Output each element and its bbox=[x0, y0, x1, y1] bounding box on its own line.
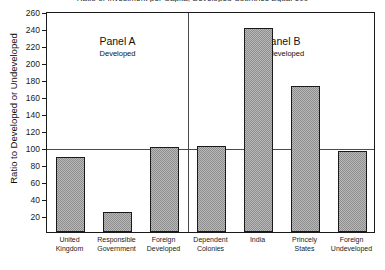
x-axis-label-line: Foreign bbox=[140, 236, 187, 245]
y-axis-tick-label: 200 bbox=[26, 59, 40, 69]
y-axis-tick bbox=[42, 64, 47, 65]
panel-b-annotation: Panel B Undeveloped bbox=[188, 35, 376, 58]
bar bbox=[150, 147, 179, 232]
bar bbox=[338, 151, 367, 232]
x-axis-label-line: India bbox=[234, 236, 281, 245]
y-axis-tick-label: 80 bbox=[31, 161, 40, 171]
y-axis-tick-label: 40 bbox=[31, 195, 40, 205]
y-axis-tick bbox=[42, 30, 47, 31]
x-axis-label-line: United bbox=[46, 236, 93, 245]
panel-b-subtitle: Undeveloped bbox=[188, 49, 376, 58]
y-axis-label: Ratio to Developed or Undeveloped bbox=[8, 4, 19, 214]
y-axis-tick bbox=[42, 132, 47, 133]
y-axis-tick-label: 220 bbox=[26, 42, 40, 52]
x-axis-label: ForeignDeveloped bbox=[140, 236, 187, 253]
x-axis-label-line: Colonies bbox=[187, 245, 234, 254]
y-axis-tick bbox=[42, 217, 47, 218]
panel-a-annotation: Panel A Developed bbox=[47, 35, 188, 58]
plot-inner: Panel A Developed Panel B Undeveloped bbox=[47, 13, 374, 232]
x-axis-label: ForeignUndeveloped bbox=[328, 236, 375, 253]
y-axis-tick-label: 20 bbox=[31, 212, 40, 222]
panel-b-title: Panel B bbox=[188, 35, 376, 47]
y-axis-tick-label: 180 bbox=[26, 76, 40, 86]
x-axis-label-line: Responsible bbox=[93, 236, 140, 245]
x-axis-label: UnitedKingdom bbox=[46, 236, 93, 253]
x-axis-label-line: Kingdom bbox=[46, 245, 93, 254]
bar bbox=[103, 212, 132, 232]
y-axis-tick bbox=[42, 115, 47, 116]
x-axis-label: DependentColonies bbox=[187, 236, 234, 253]
y-axis-tick bbox=[42, 183, 47, 184]
y-axis-tick-label: 120 bbox=[26, 127, 40, 137]
y-axis-tick bbox=[42, 98, 47, 99]
y-axis-tick bbox=[42, 200, 47, 201]
x-axis-label: PrincelyStates bbox=[281, 236, 328, 253]
bar bbox=[244, 28, 273, 232]
x-axis-category-labels: UnitedKingdomResponsibleGovernmentForeig… bbox=[46, 236, 375, 266]
bar-chart-figure: Ratio of Investment per Capita, Develope… bbox=[0, 0, 385, 270]
x-axis-label-line: Princely bbox=[281, 236, 328, 245]
y-axis-tick bbox=[42, 13, 47, 14]
bar bbox=[197, 146, 226, 232]
x-axis-label-line: Dependent bbox=[187, 236, 234, 245]
y-axis-tick-label: 100 bbox=[26, 144, 40, 154]
y-axis-tick-label: 140 bbox=[26, 110, 40, 120]
chart-title: Ratio of Investment per Capita, Develope… bbox=[0, 0, 385, 2]
y-axis-tick-label: 160 bbox=[26, 93, 40, 103]
y-axis-tick bbox=[42, 81, 47, 82]
bar bbox=[56, 157, 85, 232]
panel-a-title: Panel A bbox=[47, 35, 188, 47]
y-axis-tick bbox=[42, 149, 47, 150]
bar bbox=[291, 86, 320, 232]
x-axis-label-line: Foreign bbox=[328, 236, 375, 245]
panel-a-subtitle: Developed bbox=[47, 49, 188, 58]
x-axis-label-line: Government bbox=[93, 245, 140, 254]
y-axis-tick-label: 240 bbox=[26, 25, 40, 35]
x-axis-label-line: Developed bbox=[140, 245, 187, 254]
x-axis-label: ResponsibleGovernment bbox=[93, 236, 140, 253]
y-axis-tick-label: 260 bbox=[26, 8, 40, 18]
y-axis-tick-label: 60 bbox=[31, 178, 40, 188]
x-axis-label: India bbox=[234, 236, 281, 245]
y-axis-tick bbox=[42, 47, 47, 48]
x-axis-label-line: States bbox=[281, 245, 328, 254]
y-axis-tick bbox=[42, 166, 47, 167]
x-axis-label-line: Undeveloped bbox=[328, 245, 375, 254]
plot-area: Panel A Developed Panel B Undeveloped 20… bbox=[46, 12, 375, 233]
